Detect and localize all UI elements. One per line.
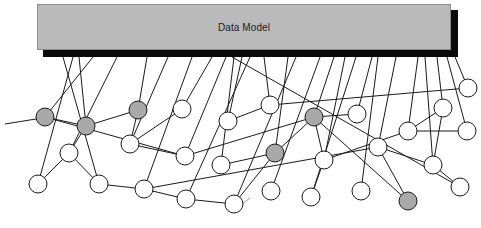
- model-link-line: [378, 57, 396, 147]
- model-link-line: [361, 57, 378, 191]
- node-open: [219, 112, 237, 130]
- node-shaded: [266, 144, 284, 162]
- node-shaded: [305, 108, 323, 126]
- edge-line: [185, 117, 314, 156]
- external-link-line: [5, 119, 36, 124]
- node-open: [212, 156, 230, 174]
- node-open: [451, 178, 469, 196]
- node-open: [424, 156, 442, 174]
- node-shaded: [399, 192, 417, 210]
- node-open: [262, 182, 280, 200]
- node-open: [369, 138, 387, 156]
- model-link-line: [144, 57, 192, 189]
- node-open: [315, 151, 333, 169]
- node-shaded: [129, 101, 147, 119]
- node-open: [121, 135, 139, 153]
- node-open: [176, 147, 194, 165]
- diagram-canvas: Data Model: [0, 0, 481, 228]
- model-link-line: [45, 57, 93, 117]
- node-open: [173, 100, 191, 118]
- model-link-line: [408, 57, 418, 131]
- node-open: [261, 96, 279, 114]
- node-open: [399, 122, 417, 140]
- model-link-line: [324, 57, 345, 160]
- model-link-line: [425, 57, 433, 165]
- node-open: [225, 195, 243, 213]
- node-open: [348, 105, 366, 123]
- model-link-line: [221, 57, 234, 165]
- node-open: [458, 122, 476, 140]
- node-open: [135, 180, 153, 198]
- node-open: [352, 182, 370, 200]
- model-link-line: [311, 57, 356, 197]
- model-link-line: [234, 57, 296, 204]
- node-open: [434, 99, 452, 117]
- node-shaded: [36, 108, 54, 126]
- node-open: [459, 79, 477, 97]
- node-open: [302, 188, 320, 206]
- node-shaded: [77, 117, 95, 135]
- node-open: [177, 190, 195, 208]
- node-open: [29, 175, 47, 193]
- node-open: [60, 144, 78, 162]
- node-open: [90, 175, 108, 193]
- edge-line: [324, 131, 408, 160]
- network-graph: [0, 0, 481, 228]
- model-link-line: [186, 57, 250, 199]
